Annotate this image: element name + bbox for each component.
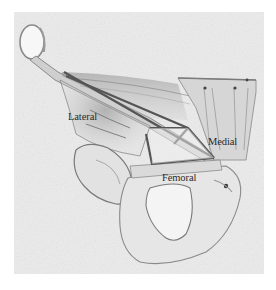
label-lateral: Lateral bbox=[68, 112, 97, 123]
iliac-spine-bone bbox=[20, 25, 45, 59]
groin-anatomy-figure: Lateral Medial Femoral bbox=[0, 0, 276, 290]
label-medial: Medial bbox=[208, 137, 237, 148]
label-femoral: Femoral bbox=[162, 173, 196, 184]
